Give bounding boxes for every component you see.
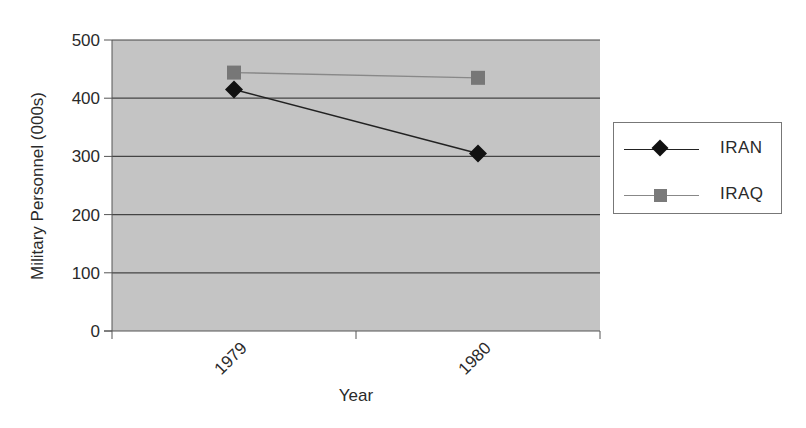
y-tick-label: 0 [91,322,100,341]
square-marker-icon [227,66,241,80]
line-chart: 0100200300400500 19791980 Year Military … [0,0,806,428]
legend-item-iran: IRAN [614,135,781,165]
plot-area [112,40,600,331]
legend-label-iran: IRAN [720,138,763,158]
diamond-marker-icon [652,140,669,157]
y-tick-label: 500 [72,31,100,50]
chart-legend: IRAN IRAQ [613,122,782,214]
y-axis-title: Military Personnel (000s) [28,92,47,280]
x-axis-title: Year [339,386,374,405]
square-marker-icon [471,71,485,85]
square-marker-icon [654,189,667,202]
y-tick-label: 400 [72,89,100,108]
x-axis-ticks: 19791980 [112,331,600,379]
y-tick-label: 100 [72,264,100,283]
y-tick-label: 300 [72,147,100,166]
y-tick-label: 200 [72,206,100,225]
x-tick-label: 1980 [455,338,495,378]
legend-label-iraq: IRAQ [720,184,764,204]
x-tick-label: 1979 [211,338,251,378]
legend-item-iraq: IRAQ [614,181,781,211]
y-axis-ticks: 0100200300400500 [72,31,112,341]
